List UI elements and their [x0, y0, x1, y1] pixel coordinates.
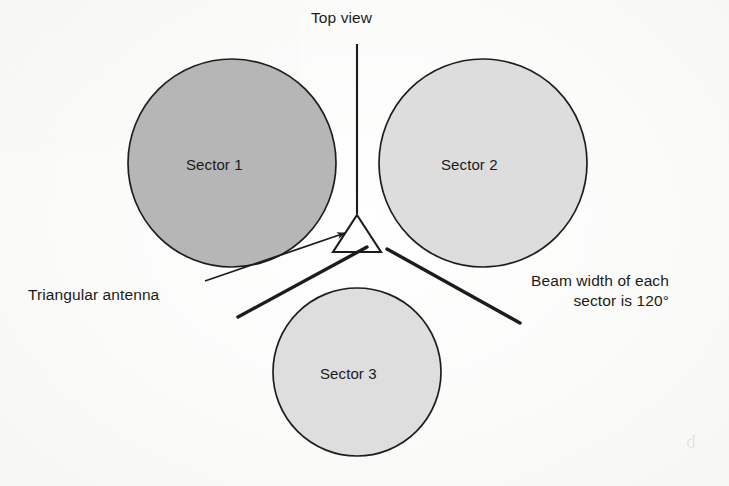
triangular-antenna-shape	[333, 215, 381, 252]
beam-width-label-line-2: sector is 120°	[531, 291, 669, 311]
beam-width-label-line-1: Beam width of each	[531, 271, 669, 291]
triangular-antenna-label: Triangular antenna	[28, 285, 159, 305]
sector-1-label: Sector 1	[186, 155, 243, 174]
sector-3-label: Sector 3	[320, 364, 377, 383]
top-view-label: Top view	[311, 8, 372, 28]
sector-2-label: Sector 2	[441, 155, 498, 174]
sector-diagram-svg	[0, 0, 729, 486]
beam-width-label: Beam width of each sector is 120°	[531, 271, 669, 311]
diagram-artwork	[0, 0, 729, 486]
figure-page: prova hear of the massive Tower receiver…	[0, 0, 729, 486]
